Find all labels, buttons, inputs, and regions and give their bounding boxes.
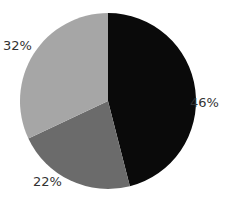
- slice-label-1: 22%: [33, 174, 62, 189]
- slice-label-0: 46%: [190, 95, 219, 110]
- pie-slices: [20, 13, 196, 189]
- slice-label-2: 32%: [3, 38, 32, 53]
